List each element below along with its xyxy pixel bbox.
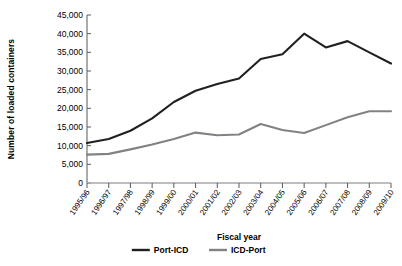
y-axis-tick-label: 45,000 bbox=[57, 10, 83, 20]
series-line-port-icd bbox=[87, 34, 391, 143]
x-axis-tick-label: 1998/99 bbox=[133, 188, 157, 217]
y-axis-tick-label: 5,000 bbox=[62, 159, 84, 169]
legend-label-icd-port: ICD-Port bbox=[231, 245, 266, 255]
x-axis-tick-label: 1996/97 bbox=[89, 188, 113, 217]
x-axis-tick-label: 2008/09 bbox=[350, 188, 374, 217]
data-series-group bbox=[87, 34, 391, 155]
x-axis-tick-label: 2001/02 bbox=[198, 188, 222, 217]
y-axis-tick-marks bbox=[87, 15, 91, 183]
line-chart: 05,00010,00015,00020,00025,00030,00035,0… bbox=[0, 0, 402, 266]
y-axis-tick-label: 0 bbox=[78, 178, 83, 188]
chart-canvas: 05,00010,00015,00020,00025,00030,00035,0… bbox=[0, 0, 402, 266]
x-axis-title: Fiscal year bbox=[217, 232, 262, 242]
x-axis-tick-marks bbox=[87, 183, 391, 188]
x-axis-tick-label: 2002/03 bbox=[220, 188, 244, 217]
y-axis-title: Number of loaded containers bbox=[6, 39, 16, 159]
x-axis-tick-label: 2004/05 bbox=[263, 188, 287, 217]
y-axis-tick-label: 10,000 bbox=[57, 141, 83, 151]
y-axis-tick-label: 20,000 bbox=[57, 103, 83, 113]
y-axis-tick-label: 15,000 bbox=[57, 122, 83, 132]
y-axis-tick-label: 30,000 bbox=[57, 66, 83, 76]
legend-label-port-icd: Port-ICD bbox=[154, 245, 188, 255]
x-axis-tick-label: 1999/00 bbox=[155, 188, 179, 217]
series-line-icd-port bbox=[87, 111, 391, 154]
x-axis-tick-label: 2006/07 bbox=[307, 188, 331, 217]
y-axis-tick-label: 35,000 bbox=[57, 47, 83, 57]
chart-legend: Port-ICDICD-Port bbox=[132, 245, 266, 255]
y-axis-tick-label: 40,000 bbox=[57, 29, 83, 39]
x-axis-tick-labels: 1995/961996/971997/981998/991999/002000/… bbox=[68, 188, 396, 217]
x-axis-tick-label: 2005/06 bbox=[285, 188, 309, 217]
y-axis-tick-label: 25,000 bbox=[57, 85, 83, 95]
x-axis-tick-label: 2007/08 bbox=[328, 188, 352, 217]
x-axis-tick-label: 2009/10 bbox=[372, 188, 396, 217]
x-axis-tick-label: 1997/98 bbox=[111, 188, 135, 217]
x-axis-tick-label: 1995/96 bbox=[68, 188, 92, 217]
y-axis-tick-labels: 05,00010,00015,00020,00025,00030,00035,0… bbox=[57, 10, 83, 188]
x-axis-tick-label: 2003/04 bbox=[241, 188, 265, 217]
x-axis-tick-label: 2000/01 bbox=[176, 188, 200, 217]
